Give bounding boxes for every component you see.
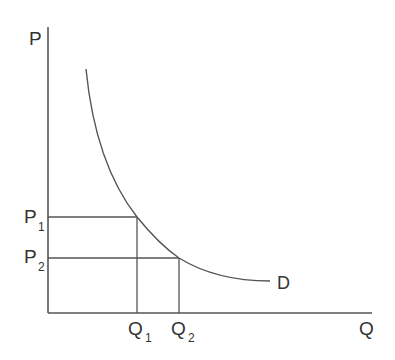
demand-curve	[86, 69, 270, 281]
demand-diagram: P Q D P 1 P 2 Q 1 Q 2	[0, 0, 395, 360]
curve-label: D	[277, 273, 290, 293]
y-axis-label: P	[29, 28, 42, 49]
p1-subscript: 1	[38, 220, 45, 234]
x-axis-label: Q	[359, 318, 374, 339]
q2-label: Q	[171, 318, 186, 339]
p2-subscript: 2	[38, 260, 45, 274]
q2-subscript: 2	[188, 331, 195, 345]
q1-subscript: 1	[145, 331, 152, 345]
p2-label: P	[24, 246, 37, 267]
p1-label: P	[24, 206, 37, 227]
q1-label: Q	[128, 318, 143, 339]
